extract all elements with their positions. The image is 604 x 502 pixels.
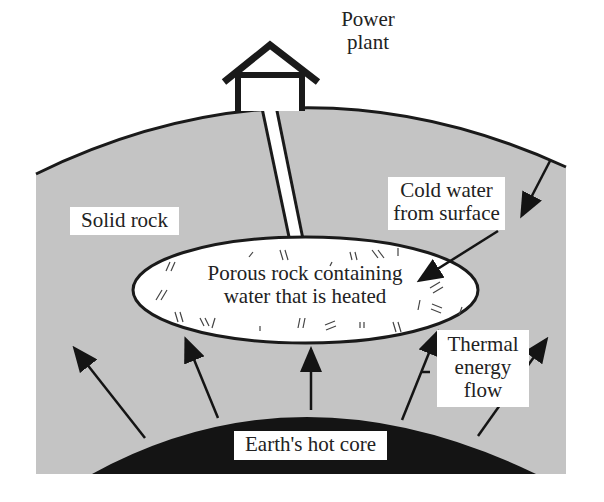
house-icon <box>224 45 318 111</box>
porous-rock-line1: Porous rock containing <box>185 262 425 285</box>
geothermal-diagram <box>0 0 604 502</box>
core-label: Earth's hot core <box>234 431 387 460</box>
cold-water-line1: Cold water <box>393 179 500 202</box>
power-plant-label-line2: plant <box>328 31 408 54</box>
core-text: Earth's hot core <box>245 432 376 456</box>
thermal-energy-label: Thermal energy flow <box>437 330 529 407</box>
solid-rock-label: Solid rock <box>70 207 179 235</box>
solid-rock-text: Solid rock <box>81 208 168 232</box>
porous-rock-label: Porous rock containing water that is hea… <box>185 262 425 308</box>
thermal-line3: flow <box>442 379 524 402</box>
power-plant-label-line1: Power <box>328 8 408 31</box>
thermal-line2: energy <box>442 356 524 379</box>
cold-water-line2: from surface <box>393 202 500 225</box>
cold-water-label: Cold water from surface <box>388 177 505 230</box>
power-plant-label: Power plant <box>328 8 408 54</box>
thermal-line1: Thermal <box>442 333 524 356</box>
porous-rock-line2: water that is heated <box>185 285 425 308</box>
